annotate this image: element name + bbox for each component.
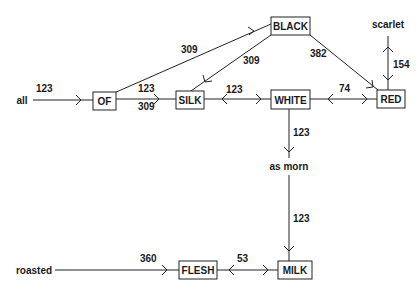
- node-scarlet: scarlet: [372, 19, 405, 30]
- arrowhead-icon: [203, 75, 212, 82]
- node-black: BLACK: [271, 17, 310, 35]
- edge-label-black-silk: 309: [243, 55, 260, 66]
- svg-text:WHITE: WHITE: [274, 95, 307, 106]
- node-milk: MILK: [278, 261, 312, 279]
- edge-label-white-asmorn: 123: [293, 127, 310, 138]
- node-roasted: roasted: [16, 265, 52, 276]
- node-of: OF: [93, 92, 116, 110]
- edge-silk-white: [203, 94, 271, 104]
- edge-label-of-silk: 123: [138, 83, 155, 94]
- svg-text:OF: OF: [98, 96, 112, 107]
- edge-label-white-red: 74: [339, 83, 351, 94]
- node-red: RED: [377, 90, 405, 108]
- edge-label-black-red: 382: [310, 48, 327, 59]
- edge-all-of: [33, 95, 93, 105]
- svg-text:SILK: SILK: [179, 95, 203, 106]
- edge-label-of-black: 309: [181, 44, 198, 55]
- edge-label-red-scarlet: 154: [393, 59, 410, 70]
- node-silk: SILK: [176, 91, 204, 109]
- node-all: all: [16, 95, 27, 106]
- edge-label-flesh-milk: 53: [237, 253, 249, 264]
- edge-flesh-milk: [217, 265, 278, 275]
- svg-text:MILK: MILK: [283, 265, 308, 276]
- edge-black-red: [310, 35, 378, 90]
- node-flesh: FLESH: [179, 261, 217, 279]
- edge-label-of-silk-2: 309: [138, 101, 155, 112]
- svg-text:BLACK: BLACK: [273, 21, 309, 32]
- edge-label-asmorn-milk: 123: [293, 213, 310, 224]
- edge-roasted-flesh: [55, 265, 179, 275]
- svg-text:RED: RED: [380, 94, 401, 105]
- edge-label-roasted-flesh: 360: [140, 253, 157, 264]
- node-white: WHITE: [271, 90, 310, 109]
- edge-label-silk-white: 123: [226, 84, 243, 95]
- node-as-morn: as morn: [270, 161, 309, 172]
- word-association-diagram: 123 123 309 309 309 382 123 74 154 123 1…: [0, 0, 420, 298]
- edge-red-scarlet: [383, 36, 393, 90]
- edge-label-all-of: 123: [36, 83, 53, 94]
- svg-text:FLESH: FLESH: [182, 265, 215, 276]
